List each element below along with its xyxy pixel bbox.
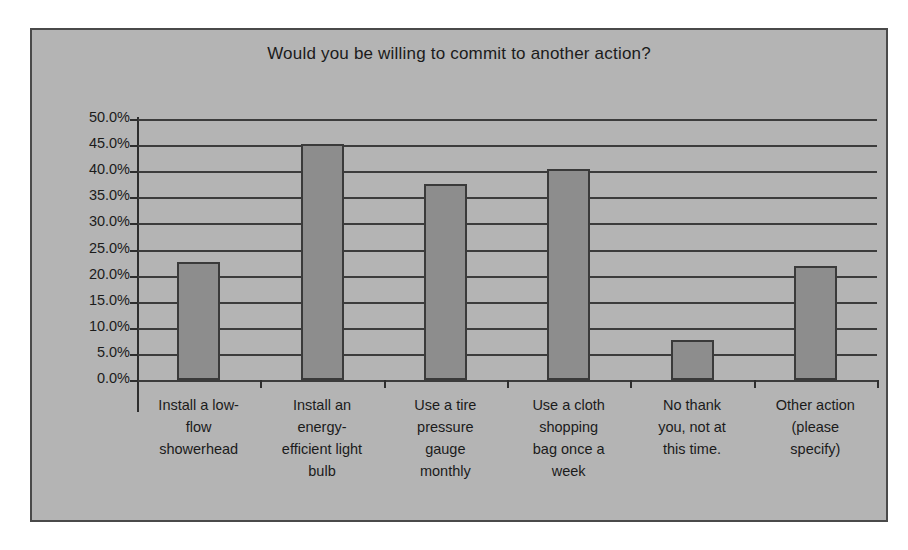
y-axis-tick	[130, 328, 138, 330]
y-axis-tick	[130, 354, 138, 356]
y-axis-tick-label: 15.0%	[60, 292, 130, 308]
x-axis-category-label-line: bulb	[260, 460, 383, 482]
gridline	[137, 354, 877, 356]
x-axis-category-label-line: pressure	[384, 416, 507, 438]
bar	[301, 144, 344, 380]
gridline	[137, 328, 877, 330]
x-axis-category-label-line: bag once a	[507, 438, 630, 460]
x-axis-category-label: Use a tirepressuregaugemonthly	[384, 394, 507, 482]
bar	[547, 169, 590, 380]
x-axis-tick	[877, 380, 879, 388]
x-axis-category-labels: Install a low-flowshowerheadInstall anen…	[137, 394, 877, 514]
gridline	[137, 119, 877, 121]
y-axis-tick	[130, 145, 138, 147]
x-axis-tick	[384, 380, 386, 388]
chart-container: Would you be willing to commit to anothe…	[30, 28, 888, 522]
x-axis-category-label: Install a low-flowshowerhead	[137, 394, 260, 460]
x-axis-category-label-line: Install a low-	[137, 394, 260, 416]
gridline	[137, 276, 877, 278]
gridline	[137, 302, 877, 304]
bar	[177, 262, 220, 380]
x-axis-category-label-line: gauge	[384, 438, 507, 460]
x-axis-category-label-line: Use a cloth	[507, 394, 630, 416]
y-axis-tick	[130, 250, 138, 252]
x-axis-category-label-line: (please	[754, 416, 877, 438]
y-axis-tick-label: 40.0%	[60, 161, 130, 177]
gridline	[137, 171, 877, 173]
x-axis-category-label: Install anenergy-efficient lightbulb	[260, 394, 383, 482]
y-axis-tick-label: 20.0%	[60, 266, 130, 282]
x-axis-category-label-line: this time.	[630, 438, 753, 460]
y-axis-tick	[130, 380, 138, 382]
x-axis-category-label: Other action(pleasespecify)	[754, 394, 877, 460]
plot-area	[137, 119, 877, 380]
x-axis-category-label-line: Install an	[260, 394, 383, 416]
x-axis-category-label: Use a clothshoppingbag once aweek	[507, 394, 630, 482]
x-axis-category-label-line: specify)	[754, 438, 877, 460]
y-axis-tick-label: 50.0%	[60, 109, 130, 125]
gridline	[137, 223, 877, 225]
y-axis-tick-label: 0.0%	[60, 370, 130, 386]
x-axis-category-label-line: monthly	[384, 460, 507, 482]
x-axis-category-label-line: showerhead	[137, 438, 260, 460]
x-axis-category-label-line: No thank	[630, 394, 753, 416]
x-axis-tick	[754, 380, 756, 388]
y-axis-tick-label: 35.0%	[60, 187, 130, 203]
chart-title: Would you be willing to commit to anothe…	[32, 44, 886, 64]
x-axis-category-label-line: efficient light	[260, 438, 383, 460]
gridline	[137, 197, 877, 199]
bar	[794, 266, 837, 380]
y-axis-tick	[130, 276, 138, 278]
y-axis-tick-label: 10.0%	[60, 318, 130, 334]
y-axis-tick	[130, 197, 138, 199]
bar	[671, 340, 714, 380]
x-axis-tick	[630, 380, 632, 388]
y-axis-tick-label: 30.0%	[60, 213, 130, 229]
x-axis-category-label-line: energy-	[260, 416, 383, 438]
x-axis-category-label-line: Use a tire	[384, 394, 507, 416]
x-axis-category-label-line: Other action	[754, 394, 877, 416]
x-axis-category-label-line: flow	[137, 416, 260, 438]
y-axis-tick	[130, 171, 138, 173]
x-axis-category-label-line: week	[507, 460, 630, 482]
x-axis-category-label-line: you, not at	[630, 416, 753, 438]
y-axis-tick-labels: 50.0%45.0%40.0%35.0%30.0%25.0%20.0%15.0%…	[46, 30, 130, 520]
x-axis-category-label: No thankyou, not atthis time.	[630, 394, 753, 460]
x-axis-tick	[507, 380, 509, 388]
x-axis-tick	[260, 380, 262, 388]
y-axis-tick	[130, 119, 138, 121]
y-axis-tick	[130, 223, 138, 225]
y-axis-tick-label: 5.0%	[60, 344, 130, 360]
x-axis-category-label-line: shopping	[507, 416, 630, 438]
y-axis-tick-label: 25.0%	[60, 240, 130, 256]
bar	[424, 184, 467, 380]
gridline	[137, 145, 877, 147]
y-axis-tick-label: 45.0%	[60, 135, 130, 151]
y-axis-tick	[130, 302, 138, 304]
gridline	[137, 250, 877, 252]
